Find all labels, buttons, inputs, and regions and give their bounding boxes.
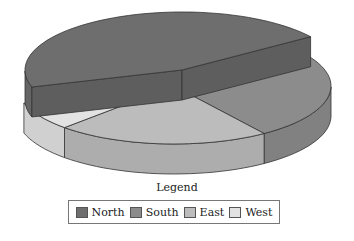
legend-label-south: South [146, 206, 179, 219]
legend-swatch-east [184, 207, 196, 218]
legend-label-east: East [200, 206, 225, 219]
legend-item-north: North [76, 206, 125, 219]
legend-title: Legend [0, 181, 354, 194]
legend-label-west: West [245, 206, 272, 219]
legend-swatch-north [76, 207, 88, 218]
legend-swatch-west [229, 207, 241, 218]
legend: North South East West [68, 200, 280, 224]
legend-label-north: North [92, 206, 125, 219]
legend-item-east: East [184, 206, 225, 219]
pie-chart [0, 0, 354, 180]
legend-item-south: South [130, 206, 179, 219]
legend-item-west: West [229, 206, 272, 219]
legend-swatch-south [130, 207, 142, 218]
